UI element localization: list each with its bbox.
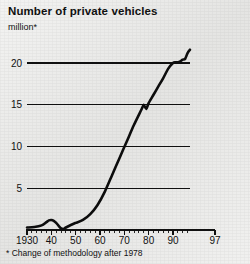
data-line-private-vehicles [27,50,190,229]
data-series-group [27,50,190,229]
footnote: * Change of methodology after 1978 [6,248,143,258]
chart-figure: Number of private vehicles million* 5101… [0,0,250,264]
y-tick-label: 20 [11,58,23,69]
x-tick-label: 1930 [16,235,39,246]
x-tick-label: 80 [143,235,155,246]
x-tick-label: 50 [70,235,82,246]
y-tick-label: 10 [11,141,23,152]
y-tick-label: 5 [16,183,22,194]
x-axis-group [26,230,215,235]
x-tick-label: 60 [94,235,106,246]
x-tick-labels-group: 193040506070809097 [16,235,221,246]
x-tick-label: 40 [46,235,58,246]
y-tick-labels-group: 5101520 [11,58,23,194]
x-tick-label: 70 [119,235,131,246]
y-tick-label: 15 [11,99,23,110]
x-tick-label: 97 [209,235,221,246]
plot-area: 5101520 193040506070809097 [0,0,250,264]
x-tick-label: 90 [167,235,179,246]
gridlines-group [27,63,190,188]
